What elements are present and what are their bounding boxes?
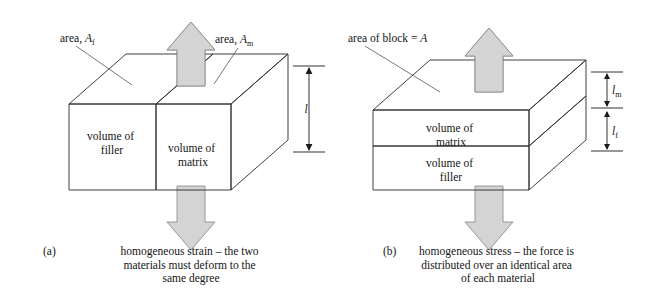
dimension-lf-b	[591, 111, 623, 151]
dimension-l-label-a: l	[304, 103, 307, 115]
area-filler-label-a: area, Af	[60, 32, 95, 47]
down-block-arrow-b	[465, 186, 513, 250]
panel-a: area, Af area, Am l volume of filler vol…	[43, 22, 325, 285]
caption-b: homogeneous stress – the force is distri…	[419, 245, 577, 284]
area-block-label-b: area of block = A	[348, 32, 428, 44]
caption-a: homogeneous strain – the two materials m…	[121, 245, 262, 285]
filler-block-label-b: volume of filler	[426, 157, 476, 183]
matrix-block-label-a: volume of matrix	[168, 142, 218, 168]
panel-id-a: (a)	[43, 245, 56, 258]
dimension-l-a	[293, 66, 325, 152]
down-block-arrow-a	[167, 186, 215, 250]
panel-id-b: (b)	[383, 245, 397, 258]
panel-b: area of block = A lm lf volume of matrix…	[348, 28, 623, 284]
block-right-face-a	[231, 54, 288, 190]
leader-area-filler-a	[76, 46, 132, 85]
leader-area-matrix-a	[214, 48, 238, 84]
leader-area-block-b	[365, 46, 440, 92]
filler-right-face-b	[529, 96, 586, 190]
dimension-lf-label-b: lf	[612, 125, 618, 140]
dimension-lm-label-b: lm	[612, 84, 622, 99]
composite-materials-figure: area, Af area, Am l volume of filler vol…	[0, 0, 661, 307]
matrix-block-label-b: volume of matrix	[426, 122, 476, 148]
area-matrix-label-a: area, Am	[215, 33, 254, 48]
filler-block-label-a: volume of filler	[87, 130, 137, 156]
matrix-top-face-a	[156, 54, 288, 104]
